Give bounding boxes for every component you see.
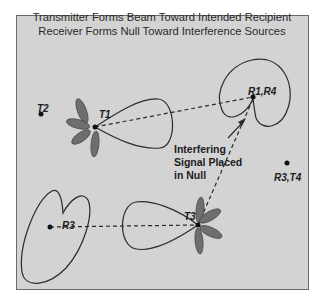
r3-receive-pattern <box>21 190 89 283</box>
r3-node <box>48 225 53 230</box>
r3t4-label: R3,T4 <box>274 172 302 183</box>
t1-node <box>93 125 98 130</box>
annotation-arrowhead <box>238 118 246 126</box>
t3-node <box>196 223 201 228</box>
beamforming-diagram: T1 T2 R1,R4 R3,T4 R3 T3 Interfering Sign… <box>0 0 324 305</box>
annotation-line-3: in Null <box>174 169 206 181</box>
t1-label: T1 <box>99 109 111 120</box>
t1-beam-lobe <box>95 99 173 148</box>
r3t4-node <box>285 161 290 166</box>
r1r4-label: R1,R4 <box>248 86 277 97</box>
t3-label: T3 <box>184 211 196 222</box>
r3-label: R3 <box>62 220 75 231</box>
annotation-line-2: Signal Placed <box>174 156 242 168</box>
annotation-line-1: Interfering <box>174 143 226 155</box>
t2-label: T2 <box>37 103 49 114</box>
